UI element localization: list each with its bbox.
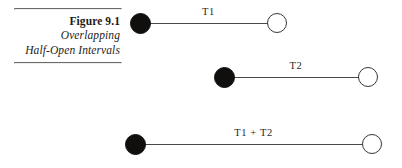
interval-right-endpoint-open-icon: [358, 67, 378, 87]
interval-segment-line: [135, 144, 372, 145]
interval-right-endpoint-open-icon: [362, 134, 382, 154]
caption-bottom-rule: [14, 62, 122, 64]
interval-label: T1 + T2: [214, 127, 294, 138]
interval-row: T1 + T2: [0, 132, 402, 158]
figure-caption-subtitle-line-2: Half-Open Intervals: [14, 43, 120, 58]
interval-segment-line: [224, 77, 368, 78]
interval-left-endpoint-closed-icon: [214, 67, 235, 88]
interval-left-endpoint-closed-icon: [130, 13, 151, 34]
interval-left-endpoint-closed-icon: [125, 134, 146, 155]
interval-row: T1: [0, 11, 402, 37]
interval-label: T1: [169, 6, 249, 17]
interval-segment-line: [140, 23, 277, 24]
figure-canvas: Figure 9.1 Overlapping Half-Open Interva…: [0, 0, 402, 168]
interval-row: T2: [0, 65, 402, 91]
caption-top-rule: [14, 8, 122, 10]
interval-right-endpoint-open-icon: [267, 13, 287, 33]
interval-label: T2: [256, 60, 336, 71]
